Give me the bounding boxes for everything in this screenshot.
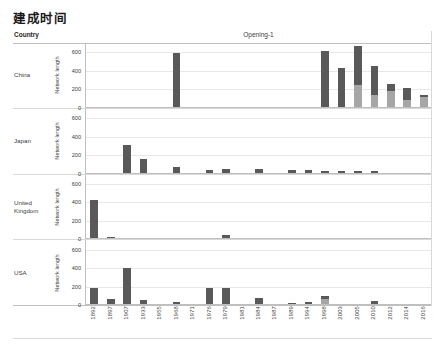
bar-segment-dark (222, 288, 230, 304)
bar (90, 288, 98, 304)
bar (371, 171, 379, 172)
bar (371, 66, 379, 107)
bar (321, 296, 329, 304)
bar-segment-dark (354, 46, 362, 86)
bar-segment-light (371, 95, 379, 107)
bar-segment-dark (371, 66, 379, 95)
bar-segment-dark (354, 171, 362, 172)
bar (387, 84, 395, 107)
bar (338, 171, 346, 173)
y-axis-ticks: 6004002000 (61, 109, 83, 174)
y-axis-title: Network length (54, 110, 60, 172)
plot-area (85, 109, 432, 174)
country-panel-japan: JapanNetwork length6004002000 (13, 109, 432, 175)
y-tick-label: 0 (61, 302, 81, 308)
bar-segment-light (321, 299, 329, 304)
x-tick-label: 1976 (206, 306, 212, 320)
bar-segment-dark (403, 88, 411, 100)
bar-series (86, 109, 432, 173)
y-axis-title: Network length (54, 242, 60, 304)
bar (107, 237, 115, 238)
y-tick-label: 400 (61, 199, 81, 205)
bar-segment-dark (255, 298, 263, 304)
bar-segment-dark (288, 170, 296, 172)
bar (123, 145, 131, 173)
bar (173, 302, 181, 304)
bar-segment-dark (107, 299, 115, 304)
bar (403, 88, 411, 107)
bar-segment-light (387, 91, 395, 107)
x-tick-label: 1971 (189, 306, 195, 320)
bar (140, 300, 148, 304)
bar-segment-dark (206, 288, 214, 304)
bar-segment-dark (371, 171, 379, 172)
bar (222, 169, 230, 172)
plot-area (85, 175, 432, 240)
bar-segment-dark (90, 288, 98, 304)
x-tick-label: 2005 (354, 306, 360, 320)
bar (305, 170, 313, 172)
x-tick-label: 2016 (420, 306, 426, 320)
y-axis-title: Network length (54, 176, 60, 238)
country-panel-united-kingdom: United KingdomNetwork length6004002000 (13, 175, 432, 241)
bar-segment-dark (222, 169, 230, 172)
y-tick-label: 600 (61, 49, 81, 55)
x-tick-label: 1998 (321, 306, 327, 320)
bar-segment-dark (305, 170, 313, 172)
country-label: USA (14, 269, 56, 277)
right-border (431, 31, 432, 306)
country-label: Japan (14, 137, 56, 145)
bar-segment-dark (338, 68, 346, 107)
bar-segment-dark (321, 51, 329, 107)
y-tick-label: 200 (61, 152, 81, 158)
country-label: United Kingdom (14, 199, 56, 215)
x-tick-label: 2003 (337, 306, 343, 320)
bar (123, 268, 131, 304)
y-tick-label: 600 (61, 181, 81, 187)
x-tick-label: 1907 (123, 306, 129, 320)
country-panel-china: ChinaNetwork length6004002000 (13, 43, 432, 109)
y-axis-title: Network length (54, 44, 60, 106)
bar-segment-dark (173, 167, 181, 173)
x-tick-label: 2012 (387, 306, 393, 320)
bar (255, 298, 263, 304)
bar-segment-dark (255, 169, 263, 173)
bar-segment-dark (173, 302, 181, 304)
y-tick-label: 600 (61, 247, 81, 253)
bar (371, 301, 379, 304)
bar-segment-dark (206, 170, 214, 173)
baseline (86, 173, 432, 174)
y-tick-label: 400 (61, 134, 81, 140)
y-tick-label: 600 (61, 115, 81, 121)
x-tick-label: 1968 (173, 306, 179, 320)
x-tick-label: 1979 (222, 306, 228, 320)
column-header-country: Country (14, 31, 39, 38)
y-tick-label: 400 (61, 265, 81, 271)
plot-area (85, 43, 432, 108)
bar-series (86, 43, 432, 107)
bar-segment-dark (305, 302, 313, 304)
y-tick-label: 200 (61, 218, 81, 224)
bar-segment-dark (140, 300, 148, 304)
x-tick-label: 1994 (304, 306, 310, 320)
bar (206, 170, 214, 173)
baseline (86, 107, 432, 108)
bar (338, 68, 346, 107)
bar-segment-dark (321, 171, 329, 173)
bar (222, 235, 230, 239)
bar (354, 46, 362, 107)
bar (321, 51, 329, 107)
bar (321, 171, 329, 173)
y-tick-label: 200 (61, 86, 81, 92)
chart-plate: Country Opening-1 ChinaNetwork length600… (13, 31, 432, 338)
bar-segment-dark (338, 171, 346, 173)
bar (173, 167, 181, 173)
bar-segment-light (354, 85, 362, 106)
y-axis-ticks: 6004002000 (61, 240, 83, 305)
x-tick-label: 1987 (271, 306, 277, 320)
bar-segment-light (403, 100, 411, 106)
bar-segment-dark (371, 301, 379, 304)
y-tick-label: 400 (61, 68, 81, 74)
bar (90, 200, 98, 238)
bar-segment-dark (107, 237, 115, 238)
